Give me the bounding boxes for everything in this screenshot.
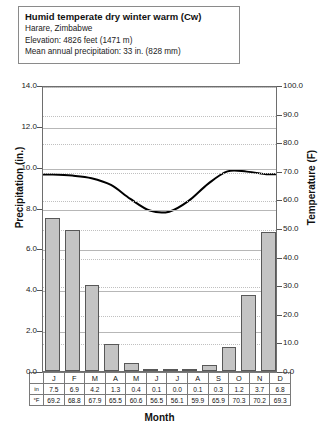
location-text: Harare, Zimbabwe [25, 23, 234, 35]
table-cell-month: O [229, 373, 250, 384]
y-axis-right-tick: 40.0 [283, 254, 320, 262]
y-axis-right-tickmark [277, 372, 282, 373]
table-row-precipitation: in 7.56.94.21.30.40.10.00.10.31.23.76.8 [30, 384, 291, 395]
y-axis-left-tick: 14.0 [0, 82, 37, 90]
mean-precipitation-text: Mean annual precipitation: 33 in. (828 m… [25, 46, 234, 58]
y-axis-right-tick: 30.0 [283, 282, 320, 290]
table-cell-month: N [249, 373, 270, 384]
gridline-temperature [43, 144, 276, 145]
gridline-temperature [43, 116, 276, 117]
table-cell-temperature: 56.5 [146, 395, 167, 406]
y-axis-right-tickmark [277, 143, 282, 144]
table-cell-precipitation: 1.2 [229, 384, 250, 395]
table-cell-month: A [188, 373, 209, 384]
table-cell-temperature: 70.3 [229, 395, 250, 406]
y-axis-right-tick: 90.0 [283, 111, 320, 119]
y-axis-left-tick: 8.0 [0, 205, 37, 213]
table-cell-precipitation: 0.1 [146, 384, 167, 395]
y-axis-right-label: Temperature (F) [306, 113, 317, 263]
y-axis-left-tick: 12.0 [0, 123, 37, 131]
table-cell-precipitation: 0.4 [126, 384, 147, 395]
y-axis-left-tickmark [37, 249, 42, 250]
elevation-text: Elevation: 4826 feet (1471 m) [25, 35, 234, 47]
gridline-precipitation [43, 210, 276, 211]
table-cell-month: J [146, 373, 167, 384]
table-row-months: JFMAMJJASOND [30, 373, 291, 384]
table-cell-month: M [85, 373, 106, 384]
y-axis-left-tick: 0.0 [0, 368, 37, 376]
precipitation-bar [182, 369, 197, 371]
precipitation-bar [65, 230, 80, 371]
y-axis-right-tickmark [277, 286, 282, 287]
table-row-temperature: °F 69.268.867.965.560.656.556.159.965.97… [30, 395, 291, 406]
precipitation-row-header: in [30, 384, 44, 395]
table-cell-precipitation: 7.5 [44, 384, 65, 395]
precipitation-bar [124, 363, 139, 371]
precipitation-bar [241, 295, 256, 371]
table-cell-temperature: 70.2 [249, 395, 270, 406]
table-cell-month: A [105, 373, 126, 384]
climate-type-title: Humid temperate dry winter warm (Cw) [25, 11, 234, 23]
y-axis-right-tickmark [277, 229, 282, 230]
table-cell-precipitation: 3.7 [249, 384, 270, 395]
table-cell-month: S [208, 373, 229, 384]
chart-plot-area [42, 86, 277, 372]
y-axis-right-tick: 0.0 [283, 368, 320, 376]
temperature-row-header: °F [30, 395, 44, 406]
y-axis-left-tickmark [37, 209, 42, 210]
y-axis-right-tick: 80.0 [283, 139, 320, 147]
gridline-temperature [43, 201, 276, 202]
y-axis-right-tickmark [277, 315, 282, 316]
y-axis-right-tickmark [277, 343, 282, 344]
gridline-precipitation [43, 169, 276, 170]
table-cell-temperature: 69.3 [270, 395, 291, 406]
precipitation-bar [45, 218, 60, 371]
y-axis-right-tickmark [277, 86, 282, 87]
info-box: Humid temperate dry winter warm (Cw) Har… [18, 6, 240, 64]
precipitation-bar [222, 347, 237, 372]
y-axis-left-tick: 2.0 [0, 327, 37, 335]
y-axis-left-tick: 4.0 [0, 286, 37, 294]
table-cell-temperature: 60.6 [126, 395, 147, 406]
table-cell-temperature: 65.5 [105, 395, 126, 406]
x-axis-label: Month [42, 412, 277, 423]
precipitation-bar [85, 285, 100, 371]
table-cell-temperature: 68.8 [64, 395, 85, 406]
table-cell-precipitation: 0.3 [208, 384, 229, 395]
y-axis-right-tick: 50.0 [283, 225, 320, 233]
y-axis-left-label: Precipitation (in.) [14, 113, 25, 263]
gridline-precipitation [43, 128, 276, 129]
y-axis-left-tick: 10.0 [0, 164, 37, 172]
y-axis-right-tick: 70.0 [283, 168, 320, 176]
table-cell-precipitation: 0.0 [167, 384, 188, 395]
precipitation-bar [202, 365, 217, 371]
table-cell-temperature: 59.9 [188, 395, 209, 406]
gridline-temperature [43, 173, 276, 174]
y-axis-left-tickmark [37, 168, 42, 169]
y-axis-left-tickmark [37, 290, 42, 291]
table-cell-month: M [126, 373, 147, 384]
gridline-temperature [43, 87, 276, 88]
precipitation-bar [261, 232, 276, 371]
y-axis-left-tick: 6.0 [0, 245, 37, 253]
table-cell-temperature: 56.1 [167, 395, 188, 406]
precipitation-bar [104, 344, 119, 371]
y-axis-right-tick: 60.0 [283, 196, 320, 204]
table-cell-precipitation: 4.2 [85, 384, 106, 395]
table-cell-precipitation: 6.8 [270, 384, 291, 395]
y-axis-right-tickmark [277, 258, 282, 259]
table-cell-month: J [44, 373, 65, 384]
y-axis-left-tickmark [37, 331, 42, 332]
y-axis-left-tickmark [37, 372, 42, 373]
table-cell-month: J [167, 373, 188, 384]
table-cell-temperature: 65.9 [208, 395, 229, 406]
table-cell-temperature: 67.9 [85, 395, 106, 406]
y-axis-right-tickmark [277, 115, 282, 116]
table-cell-temperature: 69.2 [44, 395, 65, 406]
y-axis-right-tick: 20.0 [283, 311, 320, 319]
table-cell-precipitation: 6.9 [64, 384, 85, 395]
y-axis-left-tickmark [37, 127, 42, 128]
precipitation-bar [163, 369, 178, 371]
climate-data-table: JFMAMJJASOND in 7.56.94.21.30.40.10.00.1… [29, 372, 291, 406]
table-cell-precipitation: 1.3 [105, 384, 126, 395]
